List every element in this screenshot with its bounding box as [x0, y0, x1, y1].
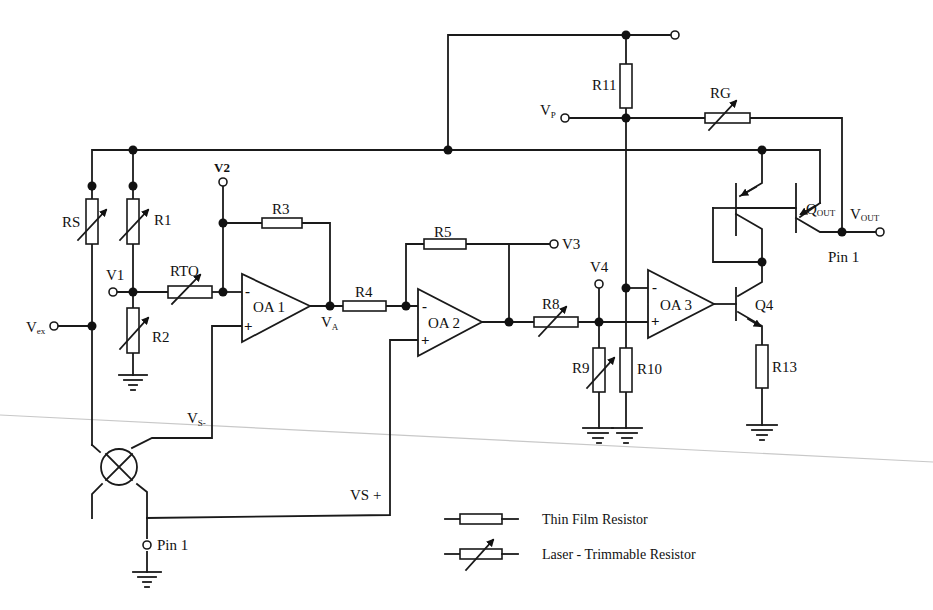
- resistor-r10: [620, 348, 632, 392]
- legend: Thin Film Resistor Laser - Trimmable Res…: [445, 512, 696, 570]
- label-r4: R4: [355, 284, 373, 300]
- oa1-plus-sign: +: [244, 318, 253, 334]
- resistor-r11: [620, 64, 632, 108]
- label-qout: QOUT: [806, 201, 836, 218]
- terminal-v3: [550, 240, 558, 248]
- terminal-top: [671, 31, 679, 39]
- resistor-rg: [705, 101, 750, 130]
- labels: RS R1 R2 RTO R3 R4 R5 R8 R9 R10 R11 R13 …: [26, 77, 880, 553]
- legend-thin-film-label: Thin Film Resistor: [542, 512, 648, 527]
- terminal-v4: [595, 280, 603, 288]
- label-r8: R8: [542, 296, 560, 312]
- label-r10: R10: [637, 361, 662, 377]
- label-oa3: OA 3: [660, 297, 692, 313]
- label-oa1: OA 1: [253, 299, 285, 315]
- label-r13: R13: [772, 359, 797, 375]
- scan-artifact-line: [0, 415, 933, 462]
- label-pin1-ground: Pin 1: [157, 537, 188, 553]
- label-r1: R1: [154, 212, 172, 228]
- terminal-pin1: [143, 541, 151, 549]
- label-vs-minus: VS-: [187, 410, 206, 428]
- label-v1: V1: [106, 267, 124, 283]
- oa3-plus-sign: +: [651, 313, 660, 329]
- legend-laser-trim-label: Laser - Trimmable Resistor: [542, 547, 696, 562]
- label-v4: V4: [590, 259, 609, 275]
- label-va: VA: [321, 314, 339, 332]
- oa2-minus-sign: -: [422, 298, 427, 314]
- label-r5: R5: [434, 224, 452, 240]
- ground-icon-r10: [612, 428, 642, 443]
- oa3-minus-sign: -: [652, 279, 657, 295]
- label-r2: R2: [152, 329, 170, 345]
- resistor-r9: [587, 348, 614, 392]
- terminal-v1: [109, 288, 117, 296]
- label-v3: V3: [562, 236, 580, 252]
- label-rto: RTO: [170, 263, 199, 279]
- circuit-schematic: RS R1 R2 RTO R3 R4 R5 R8 R9 R10 R11 R13 …: [0, 0, 933, 610]
- label-q4: Q4: [755, 297, 774, 313]
- ground-icon-pin1: [133, 572, 161, 587]
- resistor-r2: [120, 308, 148, 353]
- legend-laser-trim-icon: [445, 540, 518, 570]
- terminal-vex: [50, 322, 58, 330]
- resistor-r4: [343, 301, 386, 311]
- label-vs-plus: VS +: [350, 487, 381, 503]
- resistor-r5: [424, 239, 466, 249]
- label-vp: VP: [540, 102, 556, 120]
- label-rg: RG: [710, 85, 731, 101]
- label-r11: R11: [592, 77, 616, 93]
- label-v2: V2: [214, 160, 230, 175]
- label-rs: RS: [62, 214, 80, 230]
- terminal-vp: [561, 114, 569, 122]
- label-pin1-output: Pin 1: [828, 249, 859, 265]
- wires: [58, 35, 876, 572]
- label-vex: Vex: [26, 319, 46, 336]
- terminal-vout: [876, 228, 884, 236]
- terminal-v2: [219, 178, 227, 186]
- resistor-r1: [120, 199, 148, 244]
- label-r3: R3: [272, 201, 290, 217]
- label-r9: R9: [572, 360, 590, 376]
- oa2-plus-sign: +: [421, 332, 430, 348]
- ground-icon-r2: [119, 375, 147, 390]
- label-oa2: OA 2: [428, 315, 460, 331]
- ground-icon-r9: [583, 428, 613, 443]
- resistor-rs: [78, 199, 106, 244]
- ground-icon-r13: [747, 425, 777, 440]
- resistor-r13: [756, 345, 768, 388]
- legend-thin-film-icon: [445, 514, 518, 524]
- oa1-minus-sign: -: [245, 283, 250, 299]
- resistor-r3: [262, 218, 302, 228]
- resistor-rto: [168, 275, 212, 304]
- label-vout: VOUT: [850, 206, 880, 223]
- sensor-bridge-icon: [101, 449, 137, 485]
